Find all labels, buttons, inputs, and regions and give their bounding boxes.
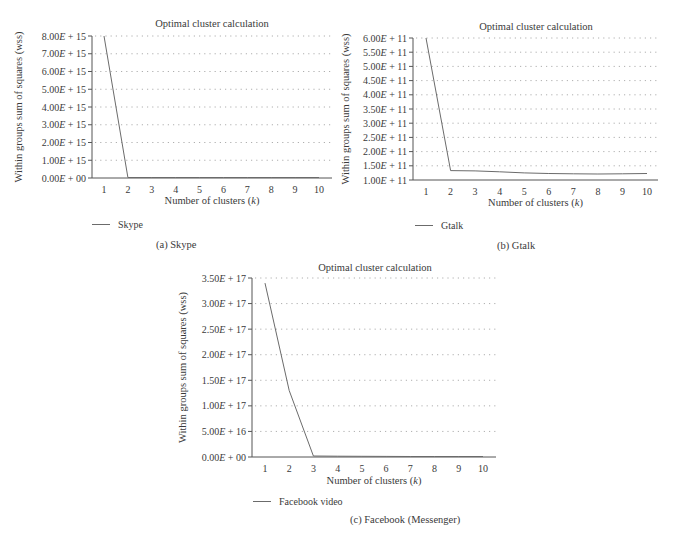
figure-caption: (a) Skype [156,239,197,251]
figure-caption: (b) Gtalk [497,240,536,252]
x-tick-label: 3 [473,186,478,197]
y-tick-label: 5.00E + 15 [42,84,86,95]
x-tick-label: 1 [424,186,429,197]
figure-caption: (c) Facebook (Messenger) [350,514,461,526]
y-tick-label: 1.00E + 17 [202,400,246,411]
y-tick-label: 4.00E + 11 [363,89,407,100]
series-line [104,36,319,178]
x-tick-label: 9 [620,186,625,197]
y-tick-label: 4.00E + 15 [42,102,86,113]
y-tick-label: 3.00E + 15 [42,119,86,130]
y-axis-label: Within groups sum of squares (wss) [340,33,352,184]
y-tick-label: 0.00E + 00 [202,452,246,463]
x-tick-label: 1 [102,184,107,195]
y-tick-label: 3.00E + 17 [202,298,246,309]
x-tick-label: 4 [497,186,502,197]
y-tick-label: 1.00E + 11 [363,175,407,186]
x-tick-label: 8 [595,186,600,197]
x-tick-label: 6 [221,184,226,195]
x-tick-label: 2 [125,184,130,195]
y-tick-label: 2.00E + 11 [363,146,407,157]
legend-label: Gtalk [441,220,463,231]
figure: Optimal cluster calculation0.00E + 001.0… [0,0,679,546]
y-tick-label: 5.00E + 11 [363,61,407,72]
y-tick-label: 7.00E + 15 [42,48,86,59]
x-tick-label: 7 [245,184,250,195]
y-tick-label: 4.50E + 11 [363,75,407,86]
y-tick-label: 5.00E + 16 [202,426,246,437]
chart-a: Optimal cluster calculation0.00E + 001.0… [13,18,332,251]
x-axis-label: Number of clusters (k) [488,197,583,209]
x-tick-label: 2 [287,463,292,474]
chart-title: Optimal cluster calculation [155,18,269,29]
x-tick-label: 10 [314,184,324,195]
legend-label: Skype [118,219,144,230]
x-tick-label: 4 [335,463,340,474]
series-line [426,38,647,174]
x-tick-label: 7 [408,463,413,474]
x-tick-label: 10 [478,463,488,474]
x-tick-label: 1 [263,463,268,474]
x-tick-label: 10 [642,186,652,197]
y-tick-label: 1.50E + 17 [202,375,246,386]
x-tick-label: 4 [173,184,178,195]
x-axis-label: Number of clusters (k) [165,195,260,207]
y-axis-label: Within groups sum of squares (wss) [177,292,189,443]
x-tick-label: 8 [269,184,274,195]
x-tick-label: 2 [448,186,453,197]
y-tick-label: 8.00E + 15 [42,31,86,42]
x-tick-label: 5 [197,184,202,195]
x-tick-label: 6 [384,463,389,474]
x-axis-label: Number of clusters (k) [327,475,422,487]
y-tick-label: 5.50E + 11 [363,47,407,58]
chart-title: Optimal cluster calculation [318,262,432,273]
y-tick-label: 2.00E + 17 [202,349,246,360]
y-tick-label: 2.50E + 11 [363,132,407,143]
x-tick-label: 3 [311,463,316,474]
x-tick-label: 9 [456,463,461,474]
x-tick-label: 6 [546,186,551,197]
y-tick-label: 2.50E + 17 [202,324,246,335]
series-line [265,283,483,456]
y-tick-label: 1.00E + 15 [42,155,86,166]
y-tick-label: 3.50E + 17 [202,273,246,284]
x-tick-label: 9 [293,184,298,195]
y-tick-label: 6.00E + 11 [363,33,407,44]
x-tick-label: 5 [522,186,527,197]
y-tick-label: 2.00E + 15 [42,137,86,148]
y-tick-label: 6.00E + 15 [42,66,86,77]
chart-b: Optimal cluster calculation1.00E + 111.5… [340,21,658,252]
x-tick-label: 3 [149,184,154,195]
y-tick-label: 1.50E + 11 [363,160,407,171]
legend-label: Facebook video [279,496,343,507]
x-tick-label: 8 [432,463,437,474]
chart-title: Optimal cluster calculation [479,21,593,32]
y-axis-label: Within groups sum of squares (wss) [13,31,25,182]
x-tick-label: 7 [571,186,576,197]
y-tick-label: 3.50E + 11 [363,104,407,115]
chart-c: Optimal cluster calculation0.00E + 005.0… [177,262,496,526]
x-tick-label: 5 [359,463,364,474]
y-tick-label: 3.00E + 11 [363,118,407,129]
y-tick-label: 0.00E + 00 [42,173,86,184]
